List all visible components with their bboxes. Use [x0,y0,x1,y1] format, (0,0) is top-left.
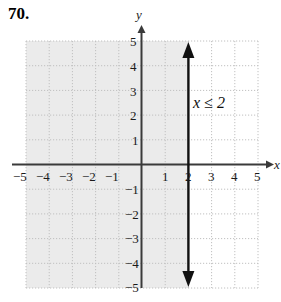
x-tick-label-3: 3 [208,170,215,183]
y-tick-label-neg1: −1 [125,183,139,196]
x-tick-label-2: 2 [185,170,192,183]
x-tick-label-1: 1 [162,170,169,183]
worksheet-page: 70. [0,0,281,302]
y-tick-label-neg2: −2 [125,208,139,221]
inequality-annotation: x ≤ 2 [193,95,225,111]
x-tick-label-neg5: −5 [13,170,27,183]
x-axis-label: x [274,158,280,171]
x-tick-label-neg3: −3 [59,170,73,183]
graph-canvas [0,0,281,302]
y-tick-label-1: 1 [132,134,139,147]
x-tick-label-neg1: −1 [105,170,119,183]
y-tick-label-neg4: −4 [125,257,139,270]
x-tick-label-4: 4 [231,170,238,183]
y-tick-label-2: 2 [130,109,137,122]
y-tick-label-3: 3 [130,85,137,98]
x-tick-label-neg4: −4 [36,170,50,183]
x-tick-label-neg2: −2 [82,170,96,183]
coordinate-plane-graph: y x −5 −4 −3 −2 −1 1 2 3 4 5 5 4 3 2 1 −… [0,0,281,302]
y-tick-label-4: 4 [130,60,137,73]
y-axis-label: y [136,8,142,21]
x-tick-label-5: 5 [254,170,261,183]
y-tick-label-neg3: −3 [125,232,139,245]
y-tick-label-5: 5 [130,35,137,48]
y-tick-label-neg5: −5 [125,281,139,294]
